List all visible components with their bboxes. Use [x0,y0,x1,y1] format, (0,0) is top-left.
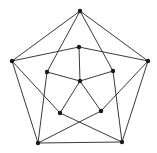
node-bottom-right [120,140,124,144]
edge-bottom-left-left [12,61,38,143]
edge-inner-left-center [47,72,80,81]
edge-bottom-left-inner-bottom-right [38,111,101,143]
edge-inner-top-center [79,47,80,81]
edge-left-inner-bottom-left [12,61,60,113]
edge-right-bottom-right [122,61,148,142]
node-top [78,9,82,13]
edge-bottom-right-bottom-left [38,142,122,143]
edge-top-right [80,11,148,61]
edge-right-inner-bottom-right [101,61,148,111]
node-bottom-left [36,141,40,145]
edge-inner-right-center [80,71,113,81]
edge-inner-bottom-right-center [80,81,101,111]
graph-diagram [0,0,157,153]
edge-inner-bottom-left-center [60,81,80,113]
node-inner-bottom-left [58,111,62,115]
edge-top-inner-left [47,11,80,72]
edge-top-inner-right [80,11,113,71]
node-left [10,59,14,63]
node-center [78,79,82,83]
node-inner-right [111,69,115,73]
node-inner-bottom-right [99,109,103,113]
node-inner-top [77,45,81,49]
edge-bottom-left-inner-left [38,72,47,143]
graph-edges [12,11,148,143]
edge-bottom-right-inner-right [113,71,122,142]
node-right [146,59,150,63]
node-inner-left [45,70,49,74]
